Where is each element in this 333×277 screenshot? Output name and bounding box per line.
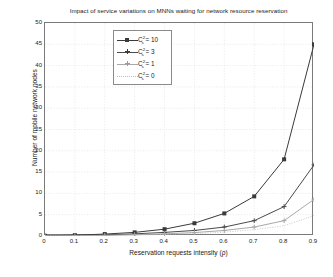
y-tick-label: 45 (28, 40, 42, 46)
x-tick-label: 0.3 (124, 238, 144, 244)
legend-sample-0 (117, 35, 138, 45)
legend-label-3: C2s = 0 (138, 73, 155, 79)
data-series-layer (45, 23, 314, 236)
x-axis-tick-labels: 00.10.20.30.40.50.60.70.80.9 (44, 238, 313, 248)
x-tick-label: 0.6 (213, 238, 233, 244)
y-tick-label: 25 (28, 126, 42, 132)
legend-sample-1 (117, 47, 138, 57)
legend-label-0: C2s = 10 (138, 37, 158, 43)
data-point-marker (252, 194, 256, 198)
data-point-marker (192, 221, 196, 225)
legend-sample-3 (117, 71, 138, 81)
y-tick-label: 5 (28, 211, 42, 217)
data-point-marker (252, 218, 257, 223)
y-tick-label: 50 (28, 19, 42, 25)
legend-label-2: C2s = 1 (138, 61, 155, 67)
legend-item-2[interactable]: C2s = 1 (114, 58, 171, 70)
x-tick-label: 0.1 (64, 238, 84, 244)
x-axis-label: Reservation requests intensity (ρ) (44, 249, 313, 256)
x-tick-label: 0.2 (94, 238, 114, 244)
data-point-marker (282, 157, 286, 161)
legend-item-3[interactable]: C2s = 0 (114, 70, 171, 82)
y-tick-label: 20 (28, 147, 42, 153)
chart-figure: Impact of service variations on MNNs wai… (0, 0, 333, 277)
legend-line-3 (117, 76, 138, 77)
y-tick-label: 35 (28, 83, 42, 89)
y-tick-label: 10 (28, 189, 42, 195)
plot-area (44, 22, 313, 235)
y-tick-label: 30 (28, 104, 42, 110)
chart-title: Impact of service variations on MNNs wai… (44, 7, 313, 14)
x-tick-label: 0.4 (154, 238, 174, 244)
series-line-0 (45, 44, 314, 235)
legend-item-1[interactable]: C2s = 3 (114, 46, 171, 58)
legend-item-0[interactable]: C2s = 10 (114, 34, 171, 46)
y-tick-label: 15 (28, 168, 42, 174)
x-tick-label: 0.8 (273, 238, 293, 244)
x-tick-label: 0.9 (303, 238, 323, 244)
series-line-1 (45, 165, 314, 236)
legend-label-1: C2s = 3 (138, 49, 155, 55)
legend-sample-2 (117, 59, 138, 69)
chart-legend[interactable]: C2s = 10C2s = 3C2s = 1C2s = 0 (113, 30, 172, 85)
data-point-marker (222, 211, 226, 215)
legend-marker-1 (125, 49, 130, 54)
legend-marker-0 (125, 38, 129, 42)
x-tick-label: 0.5 (183, 238, 203, 244)
x-tick-label: 0 (34, 238, 54, 244)
x-tick-label: 0.7 (243, 238, 263, 244)
series-line-2 (45, 199, 314, 236)
legend-marker-2 (125, 61, 130, 66)
data-point-marker (312, 42, 314, 46)
y-axis-tick-labels: 05101520253035404550 (26, 22, 42, 235)
data-point-marker (252, 225, 257, 230)
y-tick-label: 40 (28, 62, 42, 68)
